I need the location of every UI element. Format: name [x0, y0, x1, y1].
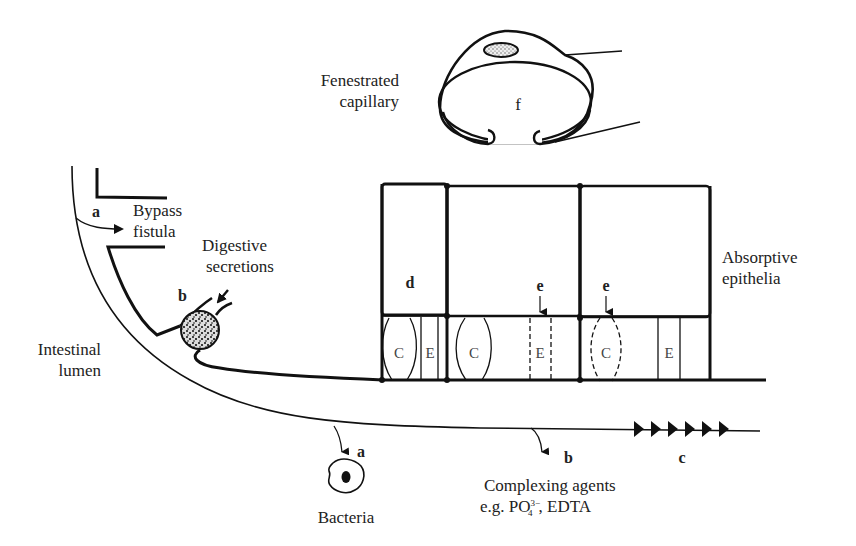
intestinal-label-1: Intestinal [38, 340, 102, 359]
bacteria-arrow [334, 426, 342, 452]
marker-b-complexing: b [564, 449, 573, 466]
diagram-canvas: f Fenestrated capillary a Bypass fistula… [0, 0, 856, 546]
marker-c-transit: c [678, 449, 685, 466]
absorptive-epithelia: C E C E C E d e e [379, 183, 710, 383]
junction-c-2: C [469, 345, 479, 361]
secretion-gland-icon [181, 311, 219, 349]
intestinal-label-2: lumen [59, 361, 102, 380]
complexing-arrow [531, 428, 542, 452]
fenestrated-label-2: capillary [340, 92, 400, 111]
marker-b-secretion: b [178, 287, 187, 304]
junction-c-1: C [394, 345, 404, 361]
fistula-upper-wall [97, 168, 167, 198]
epithelial-cell-3 [580, 186, 710, 317]
absorptive-label-1: Absorptive [722, 248, 798, 267]
fenestrated-capillary: f [439, 31, 640, 144]
marker-d-cell: d [406, 274, 415, 291]
fistula-lower-wall [108, 247, 180, 335]
transit-arrows-icon [634, 421, 729, 437]
digestive-label-2: secretions [206, 257, 274, 276]
epithelial-cell-2 [447, 186, 580, 316]
absorptive-label-2: epithelia [722, 269, 781, 288]
bypass-label-2: fistula [133, 222, 176, 241]
marker-a-bypass: a [92, 203, 100, 220]
junction-e-1: E [425, 345, 434, 361]
marker-a-bacteria: a [357, 443, 365, 460]
capillary-lumen-label: f [515, 95, 521, 114]
secretion-arrow [218, 290, 228, 302]
marker-e-junction-1: e [536, 277, 543, 294]
nucleus-icon [484, 43, 518, 57]
junction-e-2: E [535, 345, 544, 361]
complexing-label-2: e.g. PO3−4, EDTA [480, 497, 592, 518]
fenestrated-label-1: Fenestrated [321, 71, 400, 90]
complexing-label-1: Complexing agents [484, 476, 616, 495]
digestive-label-1: Digestive [202, 236, 267, 255]
marker-e-junction-2: e [602, 277, 609, 294]
junction-c-3: C [601, 345, 611, 361]
junction-e-3: E [664, 345, 673, 361]
bypass-label-1: Bypass [133, 201, 182, 220]
bacteria-label: Bacteria [318, 508, 375, 527]
epithelial-cell-1 [382, 184, 447, 315]
